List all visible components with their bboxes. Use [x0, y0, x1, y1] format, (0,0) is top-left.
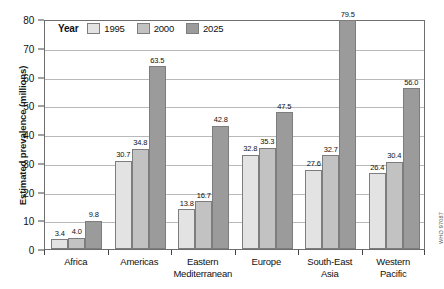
source-credit: WHO 97087: [438, 212, 444, 244]
bar-value-label: 13.8: [180, 199, 194, 208]
bar-value-label: 4.0: [72, 227, 82, 236]
bar-slot: 9.8: [85, 21, 102, 249]
bar[interactable]: [339, 20, 356, 249]
bar-value-label: 27.6: [307, 159, 321, 168]
bar-slot: 30.4: [386, 21, 403, 249]
bar-value-label: 63.5: [150, 56, 164, 65]
x-tick-mark: [298, 250, 299, 255]
y-tick-mark: [38, 20, 44, 21]
bar-value-label: 26.4: [370, 163, 384, 172]
bar-group: 30.734.863.5: [109, 21, 173, 249]
bar-value-label: 30.4: [387, 151, 401, 160]
y-tick-label: 80: [8, 15, 34, 26]
x-category-label-line: Asia: [298, 268, 362, 280]
legend-swatch: [137, 23, 150, 34]
x-category-label-line: Western: [362, 256, 426, 268]
bar-slot: 16.7: [195, 21, 212, 249]
bar[interactable]: [259, 148, 276, 249]
bar[interactable]: [51, 239, 68, 249]
bar-value-label: 79.5: [341, 10, 355, 19]
bar-value-label: 42.8: [214, 115, 228, 124]
x-category-label-line: South-East: [298, 256, 362, 268]
bar[interactable]: [68, 238, 85, 250]
x-tick-mark: [44, 250, 45, 255]
bar-slot: 3.4: [51, 21, 68, 249]
y-tick-mark: [38, 163, 44, 164]
legend-item[interactable]: 2000: [137, 23, 174, 34]
legend-item[interactable]: 1995: [87, 23, 124, 34]
bar[interactable]: [322, 155, 339, 249]
bar[interactable]: [305, 170, 322, 249]
x-category-label: Europe: [235, 256, 299, 268]
y-tick-label: 0: [8, 245, 34, 256]
x-tick-mark: [424, 250, 425, 255]
bar[interactable]: [212, 126, 229, 249]
bar-group: 26.430.456.0: [363, 21, 427, 249]
bar-value-label: 35.3: [260, 137, 274, 146]
legend-title: Year: [58, 23, 78, 34]
x-category-label-line: Mediterranean: [171, 268, 235, 280]
bars-layer: 3.44.09.830.734.863.513.816.742.832.835.…: [45, 21, 424, 249]
bar-slot: 13.8: [178, 21, 195, 249]
bar-group: 27.632.779.5: [299, 21, 363, 249]
x-tick-mark: [235, 250, 236, 255]
x-category-label-line: Pacific: [362, 268, 426, 280]
x-category-label-line: Americas: [108, 256, 172, 268]
y-tick-mark: [38, 135, 44, 136]
bar[interactable]: [132, 149, 149, 249]
legend-label: 2025: [203, 23, 223, 34]
bar-value-label: 16.7: [197, 191, 211, 200]
bar-value-label: 56.0: [404, 78, 418, 87]
bar-slot: 79.5: [339, 21, 356, 249]
y-axis-tick-labels: 01020304050607080: [8, 0, 34, 289]
x-category-label: WesternPacific: [362, 256, 426, 279]
legend-swatch: [87, 23, 100, 34]
bar-value-label: 3.4: [55, 229, 65, 238]
bar[interactable]: [386, 162, 403, 249]
bar-value-label: 9.8: [89, 210, 99, 219]
y-tick-label: 10: [8, 216, 34, 227]
bar-group: 32.835.347.5: [236, 21, 300, 249]
bar-slot: 32.7: [322, 21, 339, 249]
y-tick-label: 20: [8, 187, 34, 198]
y-tick-mark: [38, 221, 44, 222]
bar-group: 3.44.09.8: [45, 21, 109, 249]
bar-group: 13.816.742.8: [172, 21, 236, 249]
bar-slot: 35.3: [259, 21, 276, 249]
x-category-label: EasternMediterranean: [171, 256, 235, 279]
legend-label: 1995: [104, 23, 124, 34]
bar[interactable]: [369, 173, 386, 249]
x-tick-mark: [108, 250, 109, 255]
bar[interactable]: [85, 221, 102, 249]
bar[interactable]: [242, 155, 259, 249]
legend-items: 199520002025: [87, 23, 235, 34]
x-category-label-line: Eastern: [171, 256, 235, 268]
legend: Year 199520002025: [58, 23, 235, 34]
x-category-label-line: Europe: [235, 256, 299, 268]
bar-slot: 27.6: [305, 21, 322, 249]
y-tick-mark: [38, 250, 44, 251]
x-category-label: Americas: [108, 256, 172, 268]
x-tick-mark: [362, 250, 363, 255]
bar-slot: 42.8: [212, 21, 229, 249]
y-tick-mark: [38, 77, 44, 78]
bar-value-label: 47.5: [277, 102, 291, 111]
bar-value-label: 32.8: [243, 144, 257, 153]
bar[interactable]: [149, 66, 166, 249]
bar[interactable]: [178, 209, 195, 249]
y-tick-label: 50: [8, 101, 34, 112]
bar[interactable]: [276, 112, 293, 249]
bar[interactable]: [403, 88, 420, 249]
bar[interactable]: [195, 201, 212, 249]
bar[interactable]: [115, 161, 132, 249]
bar-slot: 56.0: [403, 21, 420, 249]
x-category-label-line: Africa: [44, 256, 108, 268]
y-tick-label: 60: [8, 72, 34, 83]
bar-slot: 63.5: [149, 21, 166, 249]
x-tick-mark: [171, 250, 172, 255]
legend-item[interactable]: 2025: [186, 23, 223, 34]
y-tick-mark: [38, 48, 44, 49]
y-tick-label: 30: [8, 158, 34, 169]
legend-label: 2000: [154, 23, 174, 34]
